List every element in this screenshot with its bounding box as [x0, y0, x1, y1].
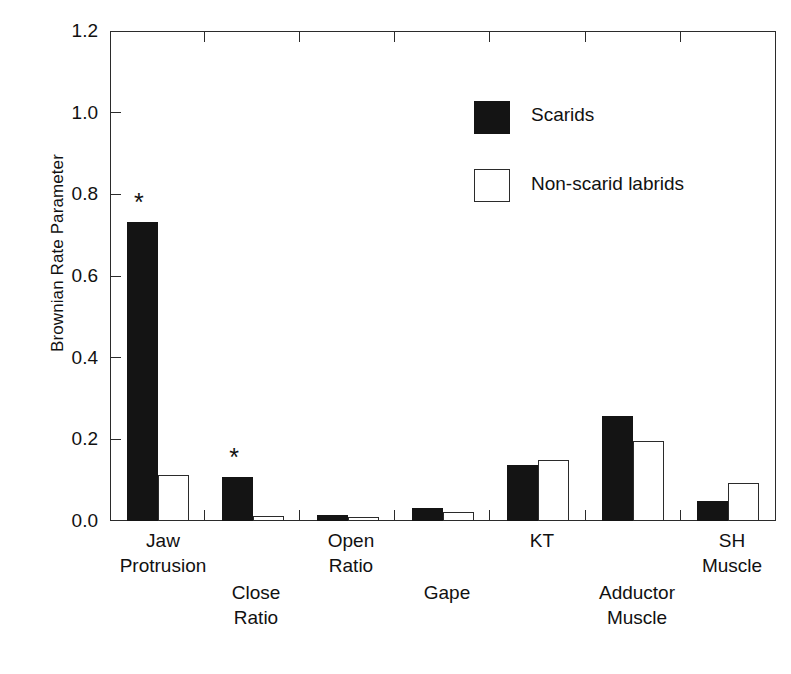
x-category-label-line2: Ratio — [161, 605, 351, 630]
x-category-label-line1: Close — [232, 582, 281, 603]
bar-open-ratio-non-scarid-labrids — [348, 517, 379, 521]
x-tick-bottom-4 — [489, 510, 490, 521]
y-tick-mark-1.0 — [110, 112, 121, 113]
bar-close-ratio-scarids — [222, 477, 253, 521]
y-tick-label-0.4: 0.4 — [52, 347, 98, 369]
x-tick-bottom-6 — [680, 510, 681, 521]
y-tick-label-0.2: 0.2 — [52, 428, 98, 450]
x-tick-bottom-2 — [299, 510, 300, 521]
bar-gape-non-scarid-labrids — [443, 512, 474, 521]
x-tick-top-2 — [299, 31, 300, 42]
x-category-label-kt: KT — [447, 528, 637, 553]
x-tick-top-5 — [585, 31, 586, 42]
bar-sh-muscle-non-scarid-labrids — [728, 483, 759, 521]
bar-sh-muscle-scarids — [697, 501, 728, 521]
x-tick-bottom-5 — [585, 510, 586, 521]
x-category-label-line1: Adductor — [599, 582, 675, 603]
y-tick-mark-0.4 — [110, 357, 121, 358]
bar-jaw-protrusion-scarids — [127, 222, 158, 521]
x-category-label-line1: Jaw — [146, 530, 180, 551]
y-tick-label-0.6: 0.6 — [52, 265, 98, 287]
x-category-label-line1: KT — [530, 530, 554, 551]
x-category-label-line1: Gape — [424, 582, 470, 603]
x-tick-top-3 — [394, 31, 395, 42]
plot-area — [110, 31, 776, 521]
x-category-label-jaw-protrusion: Jaw Protrusion — [68, 528, 258, 578]
bar-close-ratio-non-scarid-labrids — [253, 516, 284, 521]
x-category-label-gape: Gape — [352, 580, 542, 605]
bar-chart-figure: Brownian Rate Parameter 1.2 1.0 0.8 0.6 … — [0, 0, 791, 674]
x-tick-bottom-3 — [394, 510, 395, 521]
x-category-label-line2: Protrusion — [68, 553, 258, 578]
y-tick-label-0.8: 0.8 — [52, 183, 98, 205]
x-category-label-line2: Muscle — [637, 553, 791, 578]
significance-asterisk-close-ratio: * — [229, 445, 239, 470]
legend-label-scarids: Scarids — [531, 104, 594, 126]
y-tick-label-1.2: 1.2 — [52, 20, 98, 42]
x-tick-top-6 — [680, 31, 681, 42]
x-tick-top-4 — [489, 31, 490, 42]
legend-swatch-non-scarid-labrids — [474, 169, 510, 202]
legend-swatch-scarids — [474, 101, 510, 134]
bar-kt-scarids — [507, 465, 538, 521]
x-tick-top-1 — [204, 31, 205, 42]
x-category-label-line2: Ratio — [256, 553, 446, 578]
legend-label-non-scarid-labrids: Non-scarid labrids — [531, 173, 684, 195]
x-category-label-line1: SH — [719, 530, 745, 551]
bar-open-ratio-scarids — [317, 515, 348, 521]
y-tick-mark-0.6 — [110, 276, 121, 277]
y-tick-mark-0.2 — [110, 439, 121, 440]
x-category-label-line1: Open — [328, 530, 374, 551]
y-tick-label-1.0: 1.0 — [52, 102, 98, 124]
significance-asterisk-jaw-protrusion: * — [134, 190, 144, 215]
y-tick-mark-0.8 — [110, 194, 121, 195]
x-category-label-sh-muscle: SH Muscle — [637, 528, 791, 578]
x-category-label-adductor-muscle: Adductor Muscle — [542, 580, 732, 630]
bar-jaw-protrusion-non-scarid-labrids — [158, 475, 189, 521]
x-category-label-close-ratio: Close Ratio — [161, 580, 351, 630]
x-category-label-line2: Muscle — [542, 605, 732, 630]
bar-gape-scarids — [412, 508, 443, 521]
x-tick-bottom-1 — [204, 510, 205, 521]
bar-adductor-muscle-scarids — [602, 416, 633, 521]
bar-adductor-muscle-non-scarid-labrids — [633, 441, 664, 521]
x-category-label-open-ratio: Open Ratio — [256, 528, 446, 578]
bar-kt-non-scarid-labrids — [538, 460, 569, 521]
